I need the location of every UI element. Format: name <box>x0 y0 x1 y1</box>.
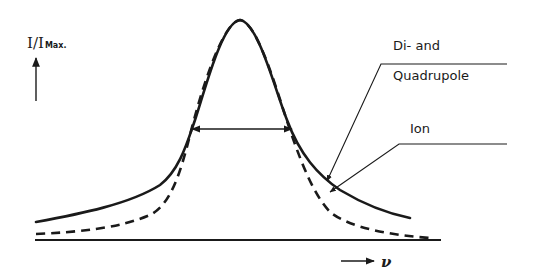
line-profile-diagram <box>0 0 533 277</box>
x-axis-label: ν <box>381 253 391 271</box>
legend-ion: Ion <box>410 121 430 136</box>
y-axis-label-subscript: Max. <box>45 41 67 50</box>
dipole-quadrupole-curve <box>36 20 410 222</box>
y-axis-label-main: I/I <box>27 34 44 52</box>
legend-dipole-line1: Di- and <box>393 38 440 53</box>
ion-leader-line <box>330 144 507 192</box>
legend-dipole-line2: Quadrupole <box>393 68 469 83</box>
y-axis-label: I/IMax. <box>27 34 66 52</box>
